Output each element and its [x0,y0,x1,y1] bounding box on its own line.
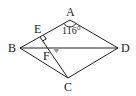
angle-label-a: 116° [62,25,81,36]
label-c: C [64,80,72,94]
label-b: B [8,41,16,55]
label-a: A [66,5,75,19]
geometry-diagram: A B C D E F 116° [0,0,136,96]
shaded-angle-f [53,48,59,53]
right-angle-mark-e [43,35,47,41]
label-e: E [34,22,41,36]
segment-cd [68,48,118,78]
label-f: F [43,49,50,63]
label-d: D [121,41,130,55]
